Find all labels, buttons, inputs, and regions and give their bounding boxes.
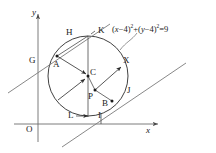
- parallel-lines-group: [8, 24, 186, 147]
- parallel-line-lower: [62, 63, 186, 147]
- segment-c-to-p: [88, 76, 95, 90]
- point-label-P: P: [88, 92, 93, 101]
- vector-b-to-x: [95, 67, 121, 90]
- equation-rhs: =9: [159, 24, 168, 34]
- point-label-A: A: [53, 60, 60, 69]
- geometry-figure: y x O H K G A C X J P B L I (x−4)2+(y−4)…: [0, 0, 216, 153]
- point-label-X: X: [123, 56, 130, 65]
- point-label-B: B: [102, 99, 108, 108]
- circle-equation-label: (x−4)2+(y−4)2=9: [112, 25, 168, 34]
- point-label-G: G: [29, 56, 36, 65]
- origin-label: O: [26, 125, 33, 134]
- point-label-L: L: [68, 111, 74, 120]
- equation-y-term: (y−4)2: [138, 24, 159, 34]
- y-axis-label: y: [32, 8, 36, 17]
- point-label-H: H: [66, 28, 73, 37]
- dot-B: [111, 100, 114, 103]
- equation-leader-line: [120, 33, 137, 50]
- point-label-J: J: [127, 86, 131, 95]
- dot-A: [56, 55, 59, 58]
- x-axis-label: x: [146, 126, 150, 135]
- tick-k: [91, 31, 95, 34]
- point-label-I: I: [98, 111, 101, 120]
- vector-l-to-c: [58, 79, 85, 100]
- dot-P: [94, 89, 97, 92]
- vector-a-to-c: [57, 56, 86, 74]
- point-label-C: C: [90, 68, 96, 77]
- equation-x-term: (x−4)2: [112, 24, 133, 34]
- point-label-K: K: [98, 26, 105, 35]
